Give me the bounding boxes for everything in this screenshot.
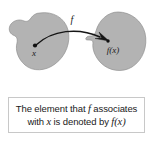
codomain-point-dot xyxy=(106,39,109,42)
caption-line-2: with x is denoted by f(x) xyxy=(27,115,125,128)
caption-line2-text-b: is denoted by xyxy=(51,116,111,127)
function-label-f: f xyxy=(71,14,75,25)
domain-point-dot xyxy=(33,43,37,47)
codomain-blob xyxy=(86,12,146,70)
codomain-element-label: f(x) xyxy=(107,45,120,55)
caption-line2-text-a: with xyxy=(27,116,46,127)
function-diagram: f x f(x) xyxy=(0,0,153,92)
domain-element-label: x xyxy=(31,48,36,58)
function-diagram-svg: f x f(x) xyxy=(0,0,153,92)
domain-blob xyxy=(9,13,69,70)
caption-line1-text-a: The element that xyxy=(16,103,88,114)
caption-line-1: The element that f associates xyxy=(16,102,138,115)
caption-line2-math-fx: f(x) xyxy=(111,116,125,127)
caption-box: The element that f associates with x is … xyxy=(8,97,145,133)
caption-line1-text-b: associates xyxy=(91,103,137,114)
